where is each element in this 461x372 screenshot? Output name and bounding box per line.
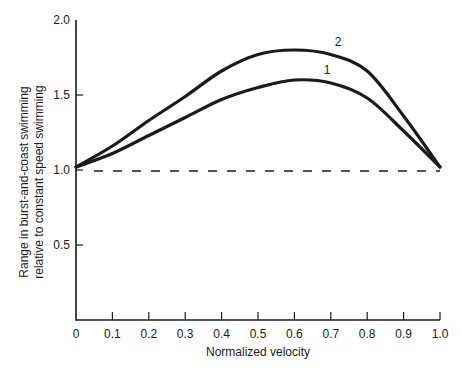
x-tick-label: 1.0 — [432, 327, 449, 341]
plot-area: 00.10.20.30.40.50.60.70.80.91.00.51.01.5… — [53, 13, 448, 341]
x-tick-label: 0 — [73, 327, 80, 341]
x-tick-label: 0.4 — [213, 327, 230, 341]
x-axis-title: Normalized velocity — [206, 345, 310, 359]
chart: 00.10.20.30.40.50.60.70.80.91.00.51.01.5… — [0, 0, 461, 372]
y-tick-label: 1.0 — [53, 163, 70, 177]
x-tick-label: 0.7 — [322, 327, 339, 341]
x-tick-label: 0.3 — [177, 327, 194, 341]
y-tick-label: 2.0 — [53, 13, 70, 27]
y-tick-label: 1.5 — [53, 88, 70, 102]
axes — [76, 20, 440, 320]
x-tick-label: 0.1 — [104, 327, 121, 341]
x-tick-label: 0.9 — [395, 327, 412, 341]
x-tick-label: 0.8 — [359, 327, 376, 341]
x-tick-label: 0.5 — [250, 327, 267, 341]
curve-series-2 — [76, 50, 440, 167]
curve-label-1: 1 — [324, 63, 331, 77]
curve-label-2: 2 — [335, 35, 342, 49]
y-tick-label: 0.5 — [53, 238, 70, 252]
x-tick-label: 0.6 — [286, 327, 303, 341]
y-axis-title-line-2: relative to constant speed swimming — [32, 85, 46, 278]
x-tick-label: 0.2 — [140, 327, 157, 341]
y-axis-title-line-1: Range in burst-and-coast swimming — [17, 86, 31, 277]
